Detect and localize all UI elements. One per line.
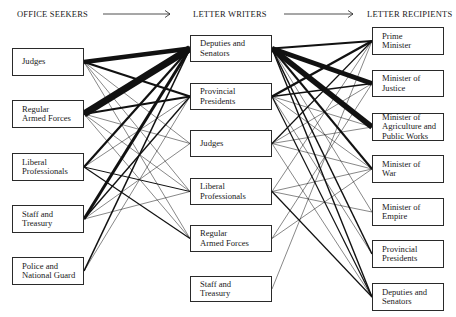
office-seeker-box: Staff and Treasury	[12, 205, 84, 233]
letter-writer-box: Regular Armed Forces	[190, 225, 272, 252]
office-seeker-label: Police and National Guard	[22, 262, 75, 281]
letter-recipient-label: Minister of Justice	[382, 74, 420, 93]
letter-recipient-box: Minister of War	[372, 155, 444, 183]
flow-link	[272, 169, 372, 239]
letter-recipient-box: Minister of Justice	[372, 70, 444, 97]
letter-recipient-label: Deputies and Senators	[382, 288, 427, 307]
letter-recipient-label: Prime Minister	[382, 32, 411, 51]
office-seeker-label: Staff and Treasury	[22, 210, 53, 229]
office-seeker-box: Liberal Professionals	[12, 153, 84, 181]
letter-recipient-box: Prime Minister	[372, 27, 444, 55]
letter-writer-box: Judges	[190, 130, 272, 157]
letter-writer-box: Liberal Professionals	[190, 178, 272, 205]
letter-writer-label: Staff and Treasury	[200, 280, 231, 299]
letter-writer-label: Liberal Professionals	[200, 182, 246, 201]
letter-recipient-box: Minister of Empire	[372, 198, 444, 226]
flow-link	[272, 97, 372, 298]
office-seeker-label: Judges	[22, 57, 45, 67]
flow-link	[272, 41, 372, 49]
office-seeker-box: Judges	[12, 48, 84, 76]
links-writers-to-recipients	[272, 41, 372, 297]
flow-link	[272, 127, 372, 144]
letter-writer-label: Judges	[200, 139, 223, 149]
letter-recipient-label: Minister of Agriculture and Public Works	[382, 113, 436, 142]
letter-writer-label: Deputies and Senators	[200, 39, 245, 58]
flow-link	[84, 114, 190, 144]
letter-writer-box: Staff and Treasury	[190, 276, 272, 302]
flow-link	[84, 167, 190, 239]
letter-recipient-box: Minister of Agriculture and Public Works	[372, 113, 444, 141]
letter-recipient-label: Minister of Empire	[382, 203, 420, 222]
letter-recipient-box: Deputies and Senators	[372, 283, 444, 311]
flow-link	[272, 144, 372, 298]
letter-recipient-label: Provincial Presidents	[382, 245, 417, 264]
flow-link	[84, 114, 190, 192]
flow-link	[272, 192, 372, 213]
letter-recipient-label: Minister of War	[382, 160, 420, 179]
flow-link	[84, 167, 190, 192]
letter-writer-label: Regular Armed Forces	[200, 229, 249, 248]
flow-link	[272, 97, 372, 255]
letter-writer-box: Provincial Presidents	[190, 83, 272, 110]
office-seeker-label: Regular Armed Forces	[22, 105, 71, 124]
links-seekers-to-writers	[84, 49, 190, 272]
flow-link	[272, 192, 372, 298]
office-seeker-box: Police and National Guard	[12, 257, 84, 285]
flow-link	[84, 144, 190, 220]
office-seeker-label: Liberal Professionals	[22, 158, 68, 177]
letter-writer-label: Provincial Presidents	[200, 87, 235, 106]
flow-link	[84, 97, 190, 272]
flow-link	[84, 97, 190, 220]
letter-writer-box: Deputies and Senators	[190, 35, 272, 62]
office-seeker-box: Regular Armed Forces	[12, 100, 84, 128]
flow-link	[272, 84, 372, 239]
flow-link	[272, 49, 372, 213]
direction-arrows	[103, 11, 353, 18]
letter-recipient-box: Provincial Presidents	[372, 240, 444, 268]
